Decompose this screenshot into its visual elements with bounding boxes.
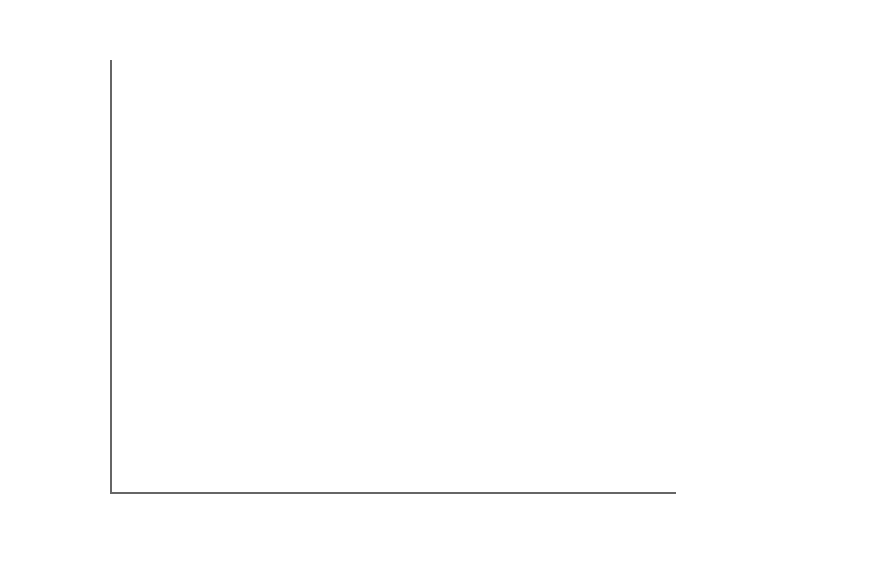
chart-canvas: [0, 0, 871, 571]
x-axis-line: [110, 492, 676, 494]
y-axis-line: [110, 60, 112, 494]
grid-and-leader-lines: [0, 0, 871, 571]
